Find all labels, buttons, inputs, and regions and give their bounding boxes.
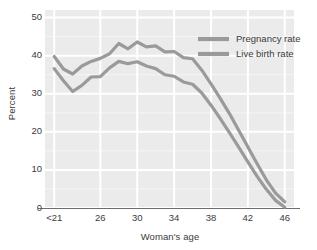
x-tick-label: 38 bbox=[191, 212, 231, 223]
y-tick-label: 20 bbox=[20, 125, 42, 136]
x-tick-label: <21 bbox=[34, 212, 74, 223]
legend-label: Pregnancy rate bbox=[236, 33, 300, 44]
y-tick-label: 50 bbox=[20, 11, 42, 22]
y-tick-label: 40 bbox=[20, 49, 42, 60]
y-tick-label: 10 bbox=[20, 163, 42, 174]
x-tick-label: 26 bbox=[80, 212, 120, 223]
chart-figure: Pregnancy rateLive birth rate 0102030405… bbox=[0, 0, 317, 250]
x-tick-label: 34 bbox=[154, 212, 194, 223]
x-tick-label: 30 bbox=[117, 212, 157, 223]
x-axis-title: Woman's age bbox=[45, 231, 295, 242]
y-tick-label: 30 bbox=[20, 87, 42, 98]
x-tick-label: 42 bbox=[228, 212, 268, 223]
legend-label: Live birth rate bbox=[236, 48, 294, 59]
y-axis-title: Percent bbox=[6, 72, 17, 136]
x-tick-label: 46 bbox=[265, 212, 305, 223]
y-tick-label: 0 bbox=[20, 202, 42, 213]
